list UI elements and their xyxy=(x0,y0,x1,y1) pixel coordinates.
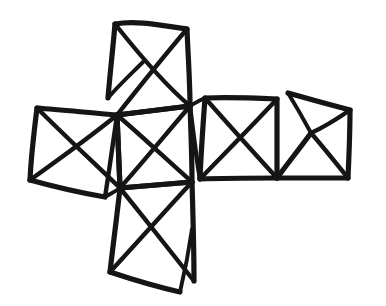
face-center xyxy=(117,106,192,188)
face-left-edge-bottom xyxy=(30,180,105,197)
face-left xyxy=(30,108,120,197)
face-right-inner-edge-left xyxy=(200,98,205,179)
face-right-outer-edge-left xyxy=(277,133,311,178)
face-bottom xyxy=(110,182,194,292)
face-center-edge-top xyxy=(117,106,190,115)
face-left-edge-left xyxy=(30,108,37,180)
face-right-outer-edge-right xyxy=(348,110,350,178)
face-bottom-edge-top xyxy=(120,182,192,188)
face-right-inner xyxy=(190,98,277,179)
face-right-outer xyxy=(277,93,350,178)
face-top-edge-left xyxy=(108,24,115,98)
face-right-inner-edge-bottom xyxy=(200,178,277,179)
face-center-diagonal-ne-sw xyxy=(120,106,190,188)
face-bottom-notch xyxy=(180,229,192,292)
polyhedron-net-drawing: Hand-drawn cross-shaped net of six squar… xyxy=(0,0,386,306)
face-left-edge-top xyxy=(37,108,117,115)
face-center-edge-left xyxy=(117,115,120,188)
face-bottom-edge-right xyxy=(192,182,194,281)
face-right-outer-diagonal-nw-se xyxy=(311,133,348,178)
face-top xyxy=(108,23,190,115)
face-right-outer-diagonal-ne-sw xyxy=(311,110,350,133)
face-bottom-diagonal-ne-sw xyxy=(110,182,192,272)
figure-root: Hand-drawn cross-shaped net of six squar… xyxy=(0,0,386,306)
face-bottom-diagonal-nw-se xyxy=(120,188,194,281)
face-top-edge-right xyxy=(187,29,190,106)
face-top-edge-top xyxy=(115,23,187,29)
face-bottom-edge-left xyxy=(110,188,120,272)
face-right-inner-edge-top xyxy=(205,98,277,99)
face-bottom-edge-bottom xyxy=(110,272,180,292)
